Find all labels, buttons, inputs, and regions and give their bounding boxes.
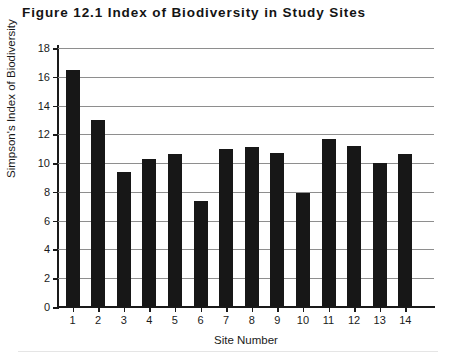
bar-site-8 — [245, 147, 259, 307]
gridline — [58, 77, 434, 78]
x-axis-tick — [175, 307, 177, 312]
x-axis-tick-label: 9 — [274, 315, 280, 326]
y-axis-tick — [53, 249, 58, 251]
x-axis-tick — [124, 307, 126, 312]
y-axis-tick-label: 12 — [38, 129, 50, 140]
x-axis-tick-label: 7 — [223, 315, 229, 326]
y-axis-tick-label: 0 — [44, 302, 50, 313]
gridline — [58, 106, 434, 107]
bar-site-6 — [194, 201, 208, 307]
y-axis-tick — [53, 278, 58, 280]
bar-site-2 — [91, 120, 105, 307]
bar-chart-plot-area: 0246810121416181234567891011121314 — [58, 48, 434, 307]
y-axis-tick — [53, 77, 58, 79]
bar-site-10 — [296, 193, 310, 307]
x-axis-tick — [405, 307, 407, 312]
x-axis-tick-label: 8 — [249, 315, 255, 326]
y-axis-tick — [53, 163, 58, 165]
gridline — [58, 134, 434, 135]
x-axis-tick — [98, 307, 100, 312]
x-axis-tick — [73, 307, 75, 312]
x-axis-tick — [303, 307, 305, 312]
y-axis-title: Simpson's Index of Biodiversity — [5, 19, 17, 178]
x-axis-tick-label: 5 — [172, 315, 178, 326]
bar-site-11 — [322, 139, 336, 307]
y-axis-tick-label: 6 — [44, 215, 50, 226]
x-axis-tick — [380, 307, 382, 312]
scan-artifact-line — [18, 351, 438, 352]
x-axis-tick — [329, 307, 331, 312]
y-axis-tick — [53, 307, 58, 309]
x-axis-tick-label: 6 — [197, 315, 203, 326]
bar-site-4 — [142, 159, 156, 307]
figure-title: Figure 12.1 Index of Biodiversity in Stu… — [22, 5, 366, 20]
y-axis-tick-label: 8 — [44, 186, 50, 197]
x-axis-tick-label: 12 — [348, 315, 360, 326]
bar-site-9 — [270, 153, 284, 307]
y-axis-tick-label: 14 — [38, 100, 50, 111]
x-axis-tick-label: 1 — [69, 315, 75, 326]
y-axis-tick-label: 2 — [44, 273, 50, 284]
x-axis-tick — [226, 307, 228, 312]
x-axis-tick-label: 4 — [146, 315, 152, 326]
x-axis-tick — [252, 307, 254, 312]
y-axis-tick-label: 16 — [38, 71, 50, 82]
gridline — [58, 48, 434, 49]
y-axis-tick — [53, 134, 58, 136]
bar-site-5 — [168, 154, 182, 307]
bar-site-14 — [398, 154, 412, 307]
x-axis-tick — [277, 307, 279, 312]
x-axis-title: Site Number — [58, 334, 434, 346]
y-axis-tick — [53, 48, 58, 50]
x-axis-tick-label: 2 — [95, 315, 101, 326]
bar-site-3 — [117, 172, 131, 307]
y-axis-tick — [53, 221, 58, 223]
y-axis-tick — [53, 106, 58, 108]
y-axis-tick-label: 18 — [38, 43, 50, 54]
x-axis-tick — [149, 307, 151, 312]
bar-site-12 — [347, 146, 361, 307]
y-axis-tick — [53, 192, 58, 194]
y-axis-tick-label: 4 — [44, 244, 50, 255]
y-axis-tick-label: 10 — [38, 158, 50, 169]
x-axis-tick — [354, 307, 356, 312]
bar-site-13 — [373, 163, 387, 307]
x-axis-tick-label: 13 — [374, 315, 386, 326]
x-axis-tick — [201, 307, 203, 312]
x-axis-tick-label: 10 — [297, 315, 309, 326]
x-axis-tick-label: 3 — [121, 315, 127, 326]
bar-site-1 — [66, 70, 80, 307]
bar-site-7 — [219, 149, 233, 307]
x-axis-tick-label: 14 — [399, 315, 411, 326]
x-axis-tick-label: 11 — [323, 315, 334, 326]
